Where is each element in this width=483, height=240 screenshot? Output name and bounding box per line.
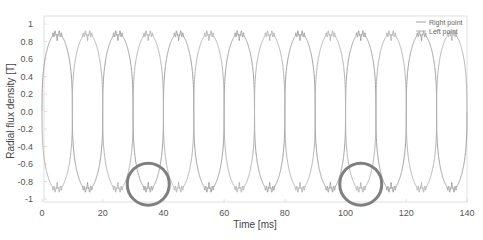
legend-label-right-point: Right point: [429, 19, 463, 27]
y-tick-label: 0.2: [20, 89, 33, 99]
y-tick-label: -0.8: [17, 177, 33, 187]
series-line-left-point: [42, 31, 467, 192]
y-tick-label: -0.6: [17, 159, 33, 169]
y-tick-label: -0.4: [17, 142, 33, 152]
y-axis-label: Radial flux density [T]: [5, 63, 16, 159]
legend-label-left-point: Left point: [429, 28, 458, 36]
y-tick-label: 0.0: [20, 107, 33, 117]
plot-border: [44, 16, 467, 202]
x-tick-label: 120: [399, 208, 414, 218]
y-tick-label: 1: [28, 19, 33, 29]
y-tick-label: -0.2: [17, 124, 33, 134]
y-tick-label: 0.8: [20, 37, 33, 47]
x-tick-label: 0: [39, 208, 44, 218]
x-axis-label: Time [ms]: [233, 219, 277, 230]
x-tick-label: 60: [219, 208, 229, 218]
y-tick-label: -1: [25, 194, 33, 204]
x-tick-label: 80: [280, 208, 290, 218]
series-layer: [42, 31, 467, 192]
y-tick-label: 0.4: [20, 72, 33, 82]
annotation-circles: [127, 163, 382, 205]
x-tick-label: 40: [158, 208, 168, 218]
y-tick-label: 0.6: [20, 54, 33, 64]
x-tick-label: 140: [459, 208, 474, 218]
x-tick-label: 20: [98, 208, 108, 218]
flux-density-chart: 10.80.60.40.20.0-0.2-0.4-0.6-0.8-1 02040…: [0, 0, 483, 240]
x-tick-label: 100: [338, 208, 353, 218]
y-axis-ticks: 10.80.60.40.20.0-0.2-0.4-0.6-0.8-1: [17, 19, 47, 204]
plot-frame: [44, 16, 467, 202]
